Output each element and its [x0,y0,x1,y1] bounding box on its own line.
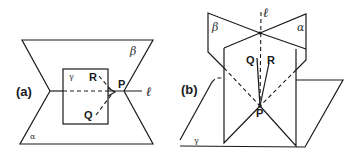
plane-alpha-hidden-b [260,70,296,106]
plane-beta-hidden-b [224,68,260,106]
ray-PR-b [260,63,269,106]
panel-label-a: (a) [16,84,32,99]
label-R-a: R [89,71,97,83]
dihedral-angle-diagram: (a) β α γ R Q P ℓ (b) β α γ Q R P [0,0,360,160]
label-R-b: R [267,54,275,66]
label-line-b: ℓ [263,5,269,20]
crossing-point-b [259,32,262,35]
label-alpha-a: α [30,132,36,141]
label-P-b: P [256,107,263,119]
plane-alpha-b [224,14,306,70]
label-beta-b: β [211,21,218,34]
angle-arms-a [108,88,115,96]
label-beta-a: β [129,45,136,58]
panel-a: (a) β α γ R Q P ℓ [16,40,153,144]
panel-b: (b) β α γ Q R P ℓ [180,5,343,147]
ray-PQ-b [257,58,260,106]
label-gamma-a: γ [69,72,74,81]
label-line-a: ℓ [146,84,152,99]
label-Q-a: Q [84,109,93,121]
label-P-a: P [118,78,125,90]
panel-label-b: (b) [181,82,198,97]
plane-gamma-hidden-b [212,78,224,82]
label-alpha-b: α [297,21,305,34]
label-Q-b: Q [246,54,255,66]
label-gamma-b: γ [194,136,199,145]
line-l-b [260,12,261,106]
ray-PQ-a [96,94,112,115]
